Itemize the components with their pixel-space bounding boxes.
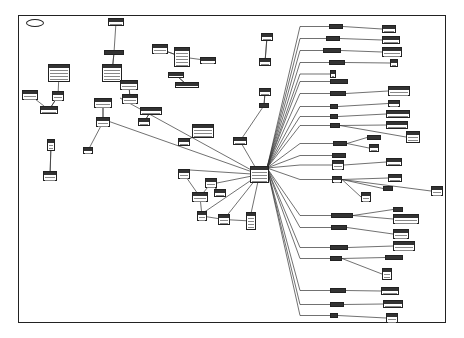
entity-box[interactable] bbox=[200, 57, 216, 64]
hub-entity-box[interactable] bbox=[250, 166, 269, 183]
entity-box[interactable] bbox=[393, 229, 409, 239]
entity-box[interactable] bbox=[330, 79, 348, 84]
entity-field bbox=[395, 238, 407, 239]
entity-box[interactable] bbox=[104, 50, 124, 55]
entity-box[interactable] bbox=[333, 141, 347, 146]
entity-box[interactable] bbox=[259, 88, 271, 96]
entity-header bbox=[333, 161, 343, 164]
entity-box[interactable] bbox=[140, 107, 162, 115]
entity-box[interactable] bbox=[367, 135, 381, 140]
entity-box[interactable] bbox=[83, 147, 93, 154]
entity-box[interactable] bbox=[386, 313, 398, 323]
entity-header bbox=[383, 37, 399, 40]
entity-box[interactable] bbox=[390, 59, 398, 67]
entity-box[interactable] bbox=[233, 137, 247, 145]
entity-header bbox=[48, 140, 54, 143]
entity-box[interactable] bbox=[197, 211, 207, 221]
entity-box[interactable] bbox=[94, 98, 112, 108]
entity-box[interactable] bbox=[152, 44, 168, 54]
entity-box[interactable] bbox=[393, 241, 415, 251]
entity-box[interactable] bbox=[96, 117, 110, 127]
entity-box[interactable] bbox=[108, 18, 124, 26]
entity-header bbox=[331, 314, 337, 317]
entity-box[interactable] bbox=[330, 123, 340, 128]
entity-box[interactable] bbox=[331, 213, 353, 218]
entity-box[interactable] bbox=[388, 100, 400, 107]
entity-header bbox=[394, 242, 414, 245]
entity-box[interactable] bbox=[330, 256, 342, 261]
entity-box[interactable] bbox=[22, 90, 38, 100]
entity-field bbox=[124, 100, 136, 101]
entity-box[interactable] bbox=[382, 25, 396, 33]
entity-box[interactable] bbox=[393, 214, 419, 224]
entity-box[interactable] bbox=[329, 60, 345, 65]
entity-field bbox=[388, 164, 400, 165]
entity-header bbox=[331, 80, 347, 83]
entity-box[interactable] bbox=[48, 64, 70, 82]
entity-box[interactable] bbox=[138, 118, 150, 126]
entity-box[interactable] bbox=[214, 189, 226, 197]
entity-box[interactable] bbox=[393, 207, 403, 212]
entity-box[interactable] bbox=[330, 70, 336, 78]
entity-box[interactable] bbox=[361, 192, 371, 202]
entity-field bbox=[50, 70, 68, 71]
entity-header bbox=[44, 172, 56, 175]
entity-box[interactable] bbox=[382, 36, 400, 44]
entity-header bbox=[262, 34, 272, 37]
entity-box[interactable] bbox=[175, 82, 199, 88]
entity-box[interactable] bbox=[178, 138, 190, 146]
entity-box[interactable] bbox=[332, 176, 342, 183]
entity-box[interactable] bbox=[383, 186, 393, 191]
entity-box[interactable] bbox=[381, 287, 399, 295]
entity-box[interactable] bbox=[102, 64, 122, 82]
entity-box[interactable] bbox=[168, 72, 184, 78]
entity-box[interactable] bbox=[192, 124, 214, 138]
entity-box[interactable] bbox=[330, 104, 338, 109]
entity-box[interactable] bbox=[330, 313, 338, 318]
entity-box[interactable] bbox=[246, 212, 256, 230]
entity-box[interactable] bbox=[47, 139, 55, 151]
entity-box[interactable] bbox=[329, 24, 343, 29]
entity-box[interactable] bbox=[52, 91, 64, 101]
entity-box[interactable] bbox=[383, 300, 403, 308]
entity-box[interactable] bbox=[386, 121, 408, 129]
entity-box[interactable] bbox=[388, 86, 410, 96]
entity-header bbox=[331, 105, 337, 108]
entity-box[interactable] bbox=[259, 103, 269, 108]
entity-box[interactable] bbox=[431, 186, 443, 196]
entity-box[interactable] bbox=[331, 225, 347, 230]
entity-box[interactable] bbox=[259, 58, 271, 66]
entity-box[interactable] bbox=[382, 268, 392, 280]
entity-box[interactable] bbox=[326, 36, 340, 41]
entity-field bbox=[104, 79, 120, 80]
entity-box[interactable] bbox=[330, 288, 346, 293]
entity-box[interactable] bbox=[330, 114, 338, 119]
entity-box[interactable] bbox=[330, 91, 346, 96]
entity-box[interactable] bbox=[332, 153, 346, 158]
entity-field bbox=[180, 144, 188, 145]
entity-header bbox=[206, 179, 216, 182]
entity-box[interactable] bbox=[388, 174, 402, 182]
entity-box[interactable] bbox=[323, 48, 341, 53]
entity-box[interactable] bbox=[406, 131, 420, 143]
entity-box[interactable] bbox=[205, 178, 217, 188]
entity-box[interactable] bbox=[40, 106, 58, 114]
entity-box[interactable] bbox=[43, 171, 57, 181]
entity-box[interactable] bbox=[218, 214, 230, 225]
entity-box[interactable] bbox=[261, 33, 273, 41]
entity-box[interactable] bbox=[120, 80, 138, 90]
entity-box[interactable] bbox=[174, 47, 190, 67]
entity-field bbox=[334, 182, 340, 183]
entity-box[interactable] bbox=[332, 160, 344, 170]
entity-box[interactable] bbox=[382, 47, 402, 57]
entity-box[interactable] bbox=[178, 169, 190, 179]
entity-box[interactable] bbox=[385, 255, 403, 260]
entity-box[interactable] bbox=[369, 144, 379, 152]
entity-box[interactable] bbox=[330, 245, 348, 250]
entity-box[interactable] bbox=[386, 110, 410, 118]
entity-box[interactable] bbox=[192, 192, 208, 202]
entity-field bbox=[384, 56, 400, 57]
entity-box[interactable] bbox=[122, 94, 138, 104]
entity-box[interactable] bbox=[386, 158, 402, 166]
entity-box[interactable] bbox=[330, 302, 344, 307]
